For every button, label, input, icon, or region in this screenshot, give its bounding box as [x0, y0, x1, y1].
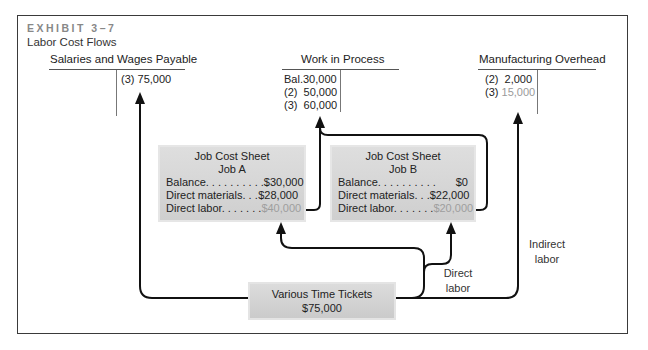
- sheet-row-balance: Balance. . . . . . . . . .$0: [338, 176, 468, 189]
- sheet-row-direct-labor: Direct labor. . . . . . .$40,000: [166, 202, 298, 215]
- sheet-job: Job A: [166, 163, 298, 176]
- indirect-labor-label: Indirect labor: [522, 237, 572, 267]
- time-tickets-box: Various Time Tickets $75,000: [248, 282, 396, 320]
- sheet-title: Job Cost Sheet: [338, 150, 468, 163]
- sheet-row-direct-labor: Direct labor. . . . . . .$20,000: [338, 202, 468, 215]
- sheet-row-direct-materials: Direct materials. . .$28,000: [166, 189, 298, 202]
- sheet-row-balance: Balance. . . . . . . . . .$30,000: [166, 176, 298, 189]
- job-cost-sheet-a: Job Cost Sheet Job A Balance. . . . . . …: [158, 145, 306, 222]
- time-tickets-amount: $75,000: [250, 301, 394, 315]
- time-tickets-title: Various Time Tickets: [250, 287, 394, 301]
- sheet-job: Job B: [338, 163, 468, 176]
- job-cost-sheet-b: Job Cost Sheet Job B Balance. . . . . . …: [330, 145, 476, 222]
- sheet-row-direct-materials: Direct materials. . .$22,000: [338, 189, 468, 202]
- sheet-title: Job Cost Sheet: [166, 150, 298, 163]
- direct-labor-label: Direct labor: [438, 266, 478, 296]
